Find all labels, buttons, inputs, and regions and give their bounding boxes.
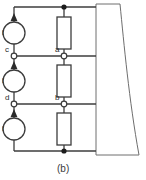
node-d-terminal [11,101,17,107]
source-top-label: i [2,29,4,37]
node-c-terminal [11,53,17,59]
node-a-terminal [61,53,67,59]
node-b-label: b [55,94,59,102]
circuit-figure: i i i c d a b (b) [0,0,146,180]
resistor-top [57,17,71,49]
junction-top [61,4,66,9]
resistor-middle [57,65,71,97]
current-arrow-middle-icon [11,61,18,69]
node-d-label: d [5,94,9,102]
current-arrow-top-icon [11,13,18,21]
node-a-label: a [55,46,59,54]
node-b-terminal [61,101,67,107]
current-arrow-bottom-icon [11,109,18,117]
source-middle [3,70,25,92]
source-bottom [3,118,25,140]
node-c-label: c [5,46,9,54]
junction-bottom [61,148,66,153]
circuit-schematic-svg [0,0,146,180]
source-top [3,22,25,44]
source-bottom-label: i [2,125,4,133]
resistor-bottom [57,113,71,145]
source-middle-label: i [2,77,4,85]
tapered-block [96,4,139,155]
figure-caption: (b) [57,164,69,174]
